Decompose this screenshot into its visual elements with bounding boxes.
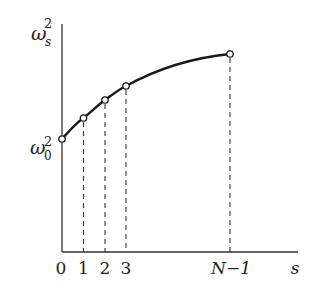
point-s0 <box>59 136 65 142</box>
tick-2: 2 <box>100 258 111 278</box>
point-sN-1 <box>227 51 233 57</box>
x-tick-labels: 0 1 2 3 N−1 <box>56 258 251 278</box>
tick-1: 1 <box>78 258 89 278</box>
y-label-sup: 2 <box>44 16 52 31</box>
point-s2 <box>102 97 108 103</box>
dispersion-diagram: ω s 2 ω 0 2 0 1 2 3 N−1 s <box>0 0 324 289</box>
data-points <box>59 51 233 142</box>
point-s3 <box>123 83 129 89</box>
tick-N-1: N−1 <box>210 258 251 278</box>
dashed-guides <box>84 58 231 252</box>
intercept-label-sub: 0 <box>44 149 52 163</box>
y-axis-label: ω s 2 <box>31 16 52 49</box>
x-axis-label: s <box>291 258 300 278</box>
y-intercept-label: ω 0 2 <box>30 134 52 163</box>
point-s1 <box>80 115 86 121</box>
y-label-sub: s <box>45 35 51 49</box>
tick-0: 0 <box>56 258 67 278</box>
omega-curve <box>62 54 230 139</box>
diagram-canvas: ω s 2 ω 0 2 0 1 2 3 N−1 s <box>0 0 324 289</box>
intercept-label-sup: 2 <box>44 134 52 149</box>
tick-3: 3 <box>121 258 132 278</box>
